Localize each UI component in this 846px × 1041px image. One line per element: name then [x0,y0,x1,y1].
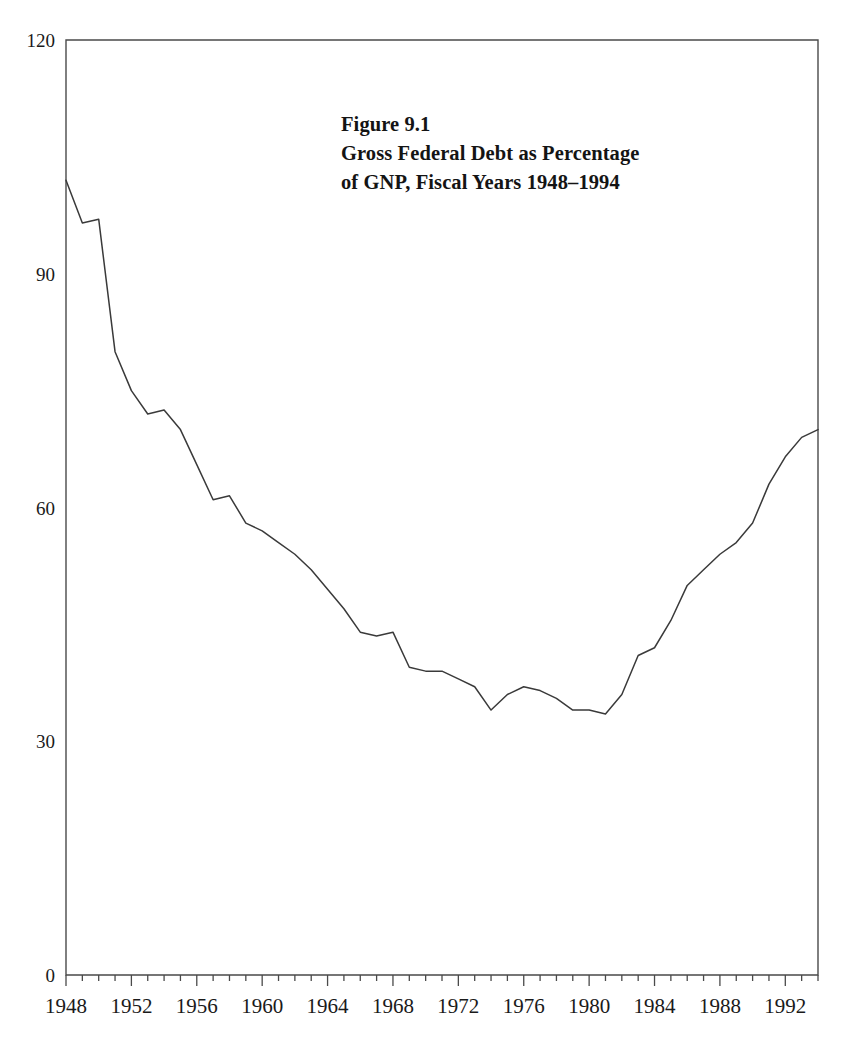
x-axis-tick-marks [66,975,818,986]
y-axis-tick-label: 120 [27,30,56,51]
debt-percentage-line [66,180,818,714]
x-axis-tick-labels: 1948195219561960196419681972197619801984… [45,994,806,1018]
x-axis-tick-label: 1960 [241,994,283,1018]
x-axis-tick-label: 1956 [176,994,218,1018]
x-axis-tick-label: 1976 [503,994,545,1018]
figure-title-line-2: of GNP, Fiscal Years 1948–1994 [341,168,761,197]
x-axis-tick-label: 1964 [307,994,350,1018]
figure-container: 1209060300 19481952195619601964196819721… [0,0,846,1041]
x-axis-tick-label: 1984 [634,994,677,1018]
y-axis-tick-label: 60 [36,498,55,519]
x-axis-tick-label: 1992 [764,994,806,1018]
data-series-group [66,180,818,714]
x-axis-tick-label: 1952 [110,994,152,1018]
y-axis-tick-label: 30 [36,731,55,752]
x-axis-tick-label: 1968 [372,994,414,1018]
y-axis-tick-labels: 1209060300 [27,30,56,986]
x-axis-tick-label: 1980 [568,994,610,1018]
y-axis-tick-label: 0 [46,965,56,986]
x-axis-tick-label: 1972 [437,994,479,1018]
figure-title-block: Figure 9.1 Gross Federal Debt as Percent… [341,110,761,197]
x-axis-tick-label: 1948 [45,994,87,1018]
y-axis-tick-label: 90 [36,264,55,285]
figure-number-label: Figure 9.1 [341,110,761,139]
x-axis-tick-label: 1988 [699,994,741,1018]
figure-title-line-1: Gross Federal Debt as Percentage [341,139,761,168]
